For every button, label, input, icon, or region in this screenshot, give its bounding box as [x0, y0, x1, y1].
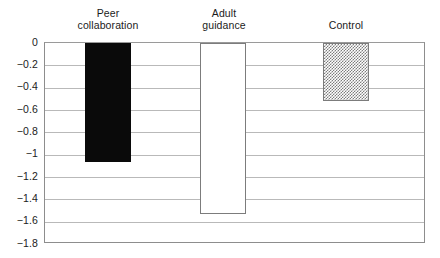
bar-control: [323, 43, 369, 101]
bar-peer-collaboration: [85, 43, 131, 162]
y-tick-m08: −0.8: [0, 126, 38, 136]
gridline: [45, 222, 424, 223]
category-label-peer-collaboration: Peer collaboration: [54, 8, 162, 31]
y-tick-m12: −1.2: [0, 171, 38, 181]
bar-adult-guidance: [200, 43, 246, 214]
y-tick-m04: −0.4: [0, 81, 38, 91]
y-tick-m14: −1.4: [0, 193, 38, 203]
y-axis-labels: 0 −0.2 −0.4 −0.6 −0.8 −1 −1.2 −1.4 −1.6 …: [0, 0, 38, 258]
plot-area: [44, 42, 425, 243]
y-tick-0: 0: [0, 37, 38, 47]
y-tick-m16: −1.6: [0, 215, 38, 225]
bar-chart-figure: Peer collaboration Adult guidance Contro…: [0, 0, 440, 258]
y-tick-m02: −0.2: [0, 59, 38, 69]
category-label-adult-guidance: Adult guidance: [170, 8, 278, 31]
y-tick-m18: −1.8: [0, 238, 38, 248]
y-tick-m1: −1: [0, 148, 38, 158]
category-label-control: Control: [292, 20, 400, 32]
y-tick-m06: −0.6: [0, 104, 38, 114]
